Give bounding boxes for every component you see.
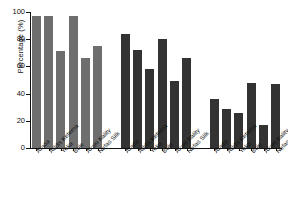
bar [121,34,130,148]
bar [170,81,179,148]
y-tick-label: 20 [17,117,25,125]
bar-chart: Percentage (%) 020406080100 AradaAddis K… [0,0,288,210]
bar [247,83,256,148]
y-tick-label: 80 [17,35,25,43]
y-tick-label: 0 [21,144,25,152]
y-tick [26,148,30,149]
y-tick-label: 40 [17,90,25,98]
x-axis-category-labels: AradaAddis KetemaYekaBoleAkaki KalityNef… [30,150,282,208]
y-tick-label: 60 [17,63,25,71]
bar [210,99,219,148]
bar [44,16,53,148]
y-tick-label: 100 [12,8,25,16]
bar [81,58,90,148]
bar [133,50,142,148]
bar [32,16,41,148]
